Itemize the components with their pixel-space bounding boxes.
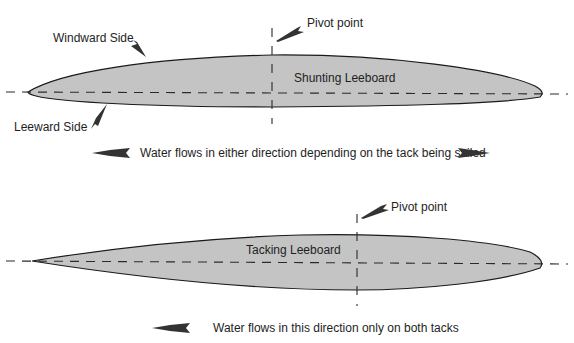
shunting-foil-shape [28,55,542,107]
tacking-flow-text: Water flows in this direction only on bo… [213,321,459,335]
flow-left-arrow-icon [152,323,190,333]
flow-left-arrow-icon [92,148,130,158]
leeward-side-label: Leeward Side [14,120,88,134]
leeboard-diagram: Shunting Leeboard Pivot point Windward S… [0,0,574,343]
shunting-title: Shunting Leeboard [294,71,395,85]
windward-side-label: Windward Side [53,31,134,45]
tacking-title: Tacking Leeboard [246,243,341,257]
shunting-pivot-label: Pivot point [307,16,364,30]
tacking-leeboard-group: Tacking Leeboard Pivot point Water flows… [6,200,568,335]
shunting-leeboard-group: Shunting Leeboard Pivot point Windward S… [6,16,568,160]
pivot-arrow-icon [361,204,389,219]
pivot-arrow-icon [276,26,304,42]
tacking-pivot-label: Pivot point [391,200,448,214]
leeward-arrow-icon [91,104,107,129]
shunting-flow-text: Water flows in either direction dependin… [140,146,486,160]
